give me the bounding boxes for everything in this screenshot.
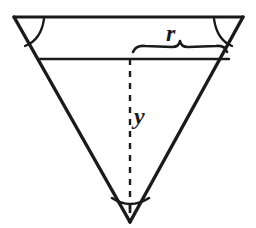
diagram-canvas: r y xyxy=(0,0,256,228)
depth-label: y xyxy=(131,103,145,129)
radius-label: r xyxy=(166,20,176,46)
triangle-diagram: r y xyxy=(0,0,256,228)
